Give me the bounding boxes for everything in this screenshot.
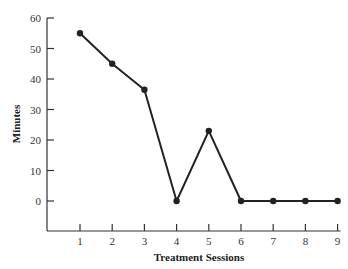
data-point-marker — [238, 198, 244, 204]
y-tick-label: 10 — [30, 165, 42, 177]
data-point-marker — [173, 198, 179, 204]
x-axis: 123456789 — [47, 224, 341, 247]
data-point-marker — [334, 198, 340, 204]
data-point-marker — [77, 30, 83, 36]
data-point-marker — [206, 128, 212, 134]
data-point-marker — [270, 198, 276, 204]
x-tick-label: 7 — [270, 235, 276, 247]
line-chart: 0102030405060 123456789 Minutes Treatmen… — [0, 0, 348, 269]
x-tick-label: 1 — [77, 235, 83, 247]
x-axis-title: Treatment Sessions — [154, 251, 245, 263]
y-tick-label: 0 — [36, 195, 42, 207]
x-tick-label: 9 — [335, 235, 341, 247]
x-tick-label: 2 — [109, 235, 115, 247]
data-point-marker — [302, 198, 308, 204]
data-point-marker — [109, 61, 115, 67]
y-tick-label: 50 — [30, 43, 42, 55]
y-axis: 0102030405060 — [30, 12, 54, 231]
x-tick-label: 5 — [206, 235, 212, 247]
y-axis-title: Minutes — [10, 104, 22, 143]
x-tick-label: 6 — [238, 235, 244, 247]
y-tick-label: 60 — [30, 12, 42, 24]
y-tick-label: 30 — [30, 104, 42, 116]
data-point-marker — [141, 86, 147, 92]
data-series — [77, 30, 341, 204]
x-tick-label: 4 — [174, 235, 180, 247]
y-tick-label: 20 — [30, 134, 42, 146]
x-tick-label: 3 — [142, 235, 148, 247]
x-tick-label: 8 — [303, 235, 309, 247]
y-tick-label: 40 — [30, 73, 42, 85]
series-line — [80, 33, 338, 201]
